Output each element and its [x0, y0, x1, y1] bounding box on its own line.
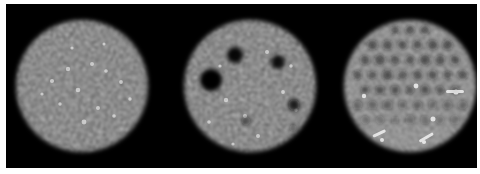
- rod: [451, 56, 460, 65]
- rod: [369, 71, 377, 79]
- panel-uniform: [6, 4, 163, 168]
- rod: [420, 85, 429, 94]
- lesion-medium-top: [227, 47, 243, 63]
- panel-rod-pattern: [320, 4, 477, 168]
- lesion-medium-right: [271, 55, 285, 69]
- rod: [353, 100, 362, 109]
- rod: [443, 40, 452, 49]
- rod-disk: [320, 4, 477, 168]
- rod: [368, 40, 377, 49]
- rod: [458, 101, 467, 110]
- panel-uniform-canvas: [6, 4, 163, 168]
- lesion-small-lowerright: [288, 99, 300, 111]
- rod: [375, 55, 385, 65]
- rod: [428, 71, 436, 79]
- rod: [368, 100, 377, 109]
- rod: [361, 86, 369, 94]
- rod: [436, 116, 444, 124]
- rod: [406, 26, 414, 34]
- rod: [420, 55, 430, 65]
- rod: [443, 101, 452, 110]
- rod: [375, 85, 384, 94]
- phantom-figure: Reconstructed phantom images: [0, 0, 480, 174]
- rod: [398, 71, 406, 79]
- rod: [420, 115, 429, 124]
- uniform-disk: [6, 4, 163, 168]
- rod: [382, 100, 392, 110]
- rod: [353, 71, 361, 79]
- rod: [436, 86, 444, 94]
- rod: [428, 40, 437, 49]
- rod: [406, 86, 414, 94]
- rod: [405, 115, 415, 125]
- rod: [376, 116, 384, 124]
- rod: [391, 86, 400, 95]
- rod: [383, 70, 393, 80]
- rod: [413, 100, 422, 109]
- rod: [391, 56, 399, 64]
- rod: [406, 56, 414, 64]
- rod: [458, 71, 467, 80]
- rod: [391, 116, 399, 124]
- lesion-disk: [163, 4, 320, 168]
- rod: [450, 115, 460, 125]
- rod: [413, 41, 421, 49]
- rod: [391, 26, 399, 34]
- rod: [413, 71, 422, 80]
- rod: [444, 71, 452, 79]
- panel-rod-pattern-canvas: [320, 4, 477, 168]
- rod: [429, 101, 437, 109]
- rod: [398, 101, 406, 109]
- rod: [435, 55, 444, 64]
- lesion-large-left: [200, 69, 222, 91]
- rod: [398, 41, 406, 49]
- panel-strip: [6, 4, 477, 168]
- lesion-tiny-right: [290, 125, 296, 131]
- lesion-tiny-center: [242, 117, 250, 125]
- rod: [361, 56, 370, 65]
- panel-cold-lesions-canvas: [163, 4, 320, 168]
- panel-cold-lesions: [163, 4, 320, 168]
- rod: [361, 116, 369, 124]
- rod: [421, 26, 429, 34]
- rod: [383, 40, 392, 49]
